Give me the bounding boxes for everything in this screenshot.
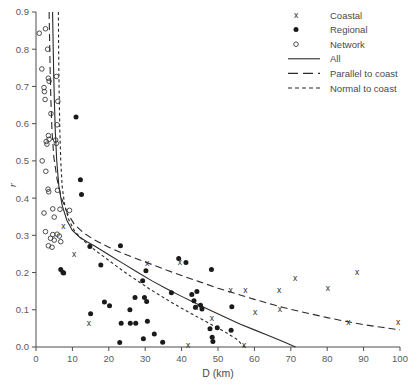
point-coastal: x [242,340,247,350]
point-regional [143,268,148,273]
chart-canvas: 0.00.10.20.30.40.50.60.70.80.9 010203040… [0,0,418,384]
point-regional [141,336,146,341]
point-coastal: x [145,258,150,268]
point-regional [152,331,157,336]
point-regional [107,303,112,308]
y-tick-label: 0.6 [16,118,29,129]
point-regional [88,311,93,316]
y-tick-label: 0.7 [16,81,29,92]
point-regional [176,256,181,261]
x-tick-label: 30 [140,353,151,364]
legend-label-coastal: Coastal [330,10,362,21]
point-regional [61,270,66,275]
curve-parallel-to-coast [49,12,400,330]
point-regional [183,260,188,265]
y-tick-label: 0.0 [16,341,29,352]
point-network [40,159,45,164]
point-network [44,169,49,174]
point-coastal: x [87,318,92,328]
fitted-curves [49,12,400,347]
point-network [43,97,48,102]
point-coastal: x [186,340,191,350]
y-tick-label: 0.2 [16,267,29,278]
point-network [50,207,55,212]
point-coastal: x [355,267,360,277]
point-coastal: x [61,221,66,231]
point-coastal: x [346,317,351,327]
point-regional [117,340,122,345]
point-coastal: x [243,285,248,295]
point-coastal: x [253,307,258,317]
point-coastal: x [229,285,234,295]
x-tick-label: 20 [104,353,115,364]
point-regional [160,340,165,345]
x-tick-label: 0 [33,353,38,364]
point-regional [144,299,149,304]
scatter-plot-figure: 0.00.10.20.30.40.50.60.70.80.9 010203040… [0,0,418,384]
y-tick-label: 0.5 [16,155,29,166]
curve-all [53,12,296,347]
point-regional [79,192,84,197]
point-network [40,67,45,72]
y-axis-title: r [6,182,18,187]
point-regional [207,326,212,331]
point-regional [194,289,199,294]
point-network [58,207,63,212]
point-regional [118,243,123,248]
y-tick-label: 0.8 [16,44,29,55]
x-tick-label: 10 [67,353,78,364]
point-regional [229,328,234,333]
point-regional [210,339,215,344]
point-coastal: x [277,285,282,295]
point-regional [169,290,174,295]
x-tick-label: 40 [176,353,187,364]
y-tick-label: 0.3 [16,230,29,241]
point-coastal: x [293,273,298,283]
point-coastal: x [278,304,283,314]
point-network [37,31,42,36]
point-regional [215,325,220,330]
point-regional [133,295,138,300]
curve-normal-to-coast [58,12,244,347]
point-regional [209,267,214,272]
point-regional [98,263,103,268]
legend-label-all: All [330,53,341,64]
y-axis-ticks: 0.00.10.20.30.40.50.60.70.80.9 [16,6,36,352]
legend-marker-coastal: x [294,10,299,20]
point-regional [189,292,194,297]
x-tick-label: 70 [286,353,297,364]
point-network [52,215,57,220]
point-regional [119,321,124,326]
point-coastal: x [326,283,331,293]
point-regional [87,244,92,249]
legend-marker-regional [294,27,299,32]
y-tick-label: 0.9 [16,6,29,17]
point-network [43,229,48,234]
x-axis-title: D (km) [202,367,234,379]
point-coastal: x [396,317,401,327]
point-coastal: x [72,249,77,259]
x-tick-label: 60 [249,353,260,364]
x-tick-label: 100 [392,353,408,364]
point-regional [229,304,234,309]
point-coastal: x [210,313,215,323]
y-tick-label: 0.1 [16,304,29,315]
legend-marker-network [294,42,299,47]
point-regional [140,278,145,283]
chart-legend: xCoastalRegionalNetworkAllParallel to co… [288,10,398,94]
point-network [43,26,48,31]
point-network [42,211,47,216]
point-regional [74,114,79,119]
point-network [58,239,63,244]
point-regional [133,321,138,326]
point-regional [128,321,133,326]
point-regional [145,319,150,324]
point-regional [193,305,198,310]
legend-label-regional: Regional [330,24,368,35]
point-regional [78,177,83,182]
legend-label-normal-to-coast: Normal to coast [330,83,397,94]
point-regional [191,298,196,303]
x-tick-label: 90 [358,353,369,364]
point-network [52,238,57,243]
point-network [67,208,72,213]
